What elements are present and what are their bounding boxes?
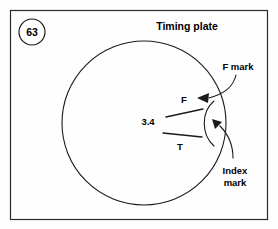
f-mark-callout-label: F mark xyxy=(222,61,254,72)
f-mark-arrowhead xyxy=(197,93,209,103)
t-mark-label: T xyxy=(177,141,183,152)
t-mark-line xyxy=(163,133,202,137)
figure-canvas: 63 Timing plate F T 3.4 F mark Index mar… xyxy=(0,0,278,229)
dimension-value-label: 3.4 xyxy=(141,116,155,127)
index-mark-callout-line1: Index xyxy=(223,165,249,176)
f-mark-label: F xyxy=(181,94,187,105)
figure-number-label: 63 xyxy=(26,26,38,38)
timing-plate-figure: 63 Timing plate F T 3.4 F mark Index mar… xyxy=(0,0,278,229)
f-mark-line xyxy=(166,109,203,117)
index-mark-arrowhead xyxy=(212,119,222,129)
figure-border xyxy=(11,11,268,220)
index-mark-cusp xyxy=(204,101,214,146)
figure-title: Timing plate xyxy=(156,20,218,32)
index-mark-callout-line2: mark xyxy=(224,177,247,188)
index-mark-leader-line xyxy=(220,126,233,158)
